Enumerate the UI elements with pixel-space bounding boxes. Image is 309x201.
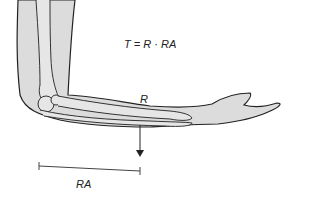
force-arrow-head	[136, 150, 144, 157]
moment-arm-label: RA	[76, 178, 91, 190]
arm-illustration	[0, 0, 309, 201]
torque-formula: T = R · RA	[124, 38, 176, 50]
arm-silhouette	[17, 0, 280, 127]
forearm-torque-diagram: T = R · RA R RA	[0, 0, 309, 201]
force-label: R	[140, 93, 148, 105]
moment-arm-line	[39, 166, 140, 171]
